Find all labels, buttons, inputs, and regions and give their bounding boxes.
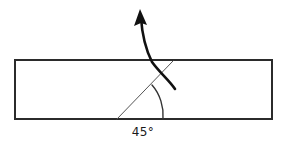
diagram-canvas: Ray entering a rectangular slab at 45 de…: [0, 0, 285, 142]
slab-refraction-diagram: Ray entering a rectangular slab at 45 de…: [0, 0, 285, 142]
angle-label: 45°: [132, 125, 154, 139]
rectangular-slab: [15, 60, 272, 119]
